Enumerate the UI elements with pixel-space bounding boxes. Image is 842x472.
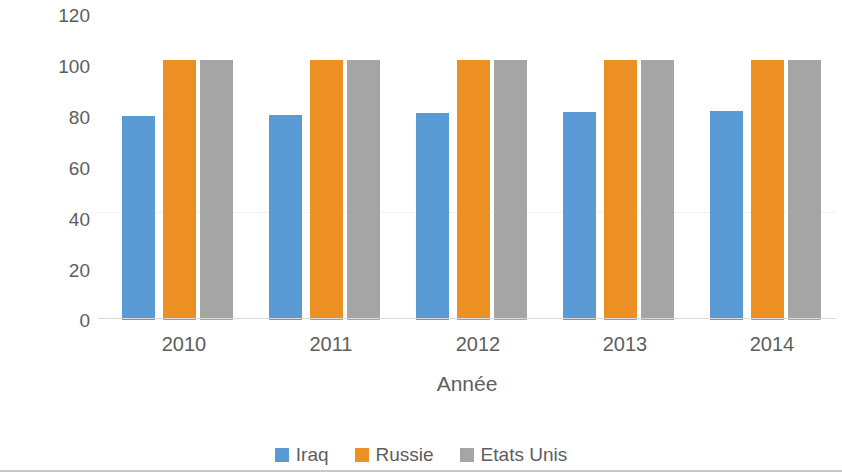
y-tick-label: 100: [42, 57, 90, 76]
bar-group-2013: [555, 8, 695, 320]
bar-etats-unis-2013: [641, 60, 674, 320]
x-tick-label-2012: 2012: [408, 333, 548, 356]
bar-russie-2013: [604, 60, 637, 320]
bar-etats-unis-2011: [347, 60, 380, 320]
x-tick-label-2010: 2010: [114, 333, 254, 356]
legend-item-russie: Russie: [355, 445, 434, 464]
bar-group-2010: [114, 8, 254, 320]
bar-etats-unis-2010: [200, 60, 233, 320]
bar-etats-unis-2012: [494, 60, 527, 320]
legend-item-iraq: Iraq: [275, 445, 329, 464]
x-tick-label-2011: 2011: [261, 333, 401, 356]
legend-swatch-icon: [355, 448, 369, 462]
y-tick-label: 120: [42, 6, 90, 25]
bar-iraq-2010: [122, 116, 155, 320]
plot-area: [98, 8, 836, 320]
x-tick-label-2013: 2013: [555, 333, 695, 356]
x-axis-title: Année: [98, 372, 836, 396]
bar-russie-2012: [457, 60, 490, 320]
x-axis-tick-labels: 2010 2011 2012 2013 2014: [98, 333, 836, 363]
x-axis-line: [98, 318, 836, 319]
legend-swatch-icon: [460, 448, 474, 462]
y-tick-label: 80: [42, 108, 90, 127]
legend-swatch-icon: [275, 448, 289, 462]
bar-iraq-2011: [269, 115, 302, 320]
bar-iraq-2013: [563, 112, 596, 320]
legend-label-russie: Russie: [376, 445, 434, 464]
y-axis-tick-labels: 120 100 80 60 40 20 0: [38, 0, 90, 330]
x-tick-label-2014: 2014: [702, 333, 842, 356]
bar-iraq-2014: [710, 111, 743, 320]
y-tick-label: 60: [42, 159, 90, 178]
y-tick-label: 0: [42, 311, 90, 330]
bar-etats-unis-2014: [788, 60, 821, 320]
bar-group-2014: [702, 8, 842, 320]
bar-iraq-2012: [416, 113, 449, 320]
bar-russie-2010: [163, 60, 196, 320]
chart-legend: Iraq Russie Etats Unis: [0, 445, 842, 464]
y-tick-label: 20: [42, 261, 90, 280]
bar-group-2012: [408, 8, 548, 320]
bar-chart-figure: Pourcentage de la population 120 100 80 …: [0, 0, 842, 472]
bar-russie-2011: [310, 60, 343, 320]
legend-label-etats-unis: Etats Unis: [481, 445, 568, 464]
y-tick-label: 40: [42, 210, 90, 229]
bar-group-2011: [261, 8, 401, 320]
legend-item-etats-unis: Etats Unis: [460, 445, 568, 464]
legend-label-iraq: Iraq: [296, 445, 329, 464]
bar-russie-2014: [751, 60, 784, 320]
